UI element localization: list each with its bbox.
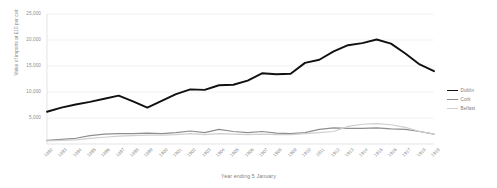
y-tick-label: 20,000	[5, 37, 41, 42]
legend-swatch-icon	[447, 99, 458, 100]
legend-label: Cork	[461, 97, 471, 102]
legend-label: Belfast	[461, 106, 476, 111]
legend-item-belfast[interactable]: Belfast	[447, 104, 495, 113]
series-lines	[47, 39, 434, 140]
y-tick-label: 15,000	[5, 63, 41, 68]
gridlines	[47, 14, 434, 118]
line-chart: Value of imports at £10 per cwt Year end…	[0, 0, 497, 188]
legend-item-cork[interactable]: Cork	[447, 95, 495, 104]
y-tick-label: 5,000	[5, 115, 41, 120]
y-tick-label: 25,000	[5, 11, 41, 16]
legend-label: Dublin	[461, 88, 475, 93]
legend-item-dublin[interactable]: Dublin	[447, 86, 495, 95]
legend-swatch-icon	[447, 90, 458, 91]
y-tick-label: 10,000	[5, 89, 41, 94]
series-line-dublin	[47, 39, 434, 111]
legend: DublinCorkBelfast	[447, 86, 495, 113]
plot-area	[0, 0, 497, 188]
legend-swatch-icon	[447, 108, 458, 109]
